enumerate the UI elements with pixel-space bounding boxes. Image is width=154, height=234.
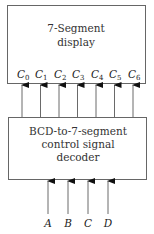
output-label-c0: C0 bbox=[17, 68, 30, 82]
decoder-title-line-2: control signal bbox=[41, 138, 115, 150]
input-label-d: D bbox=[103, 217, 113, 229]
output-label-c3: C3 bbox=[72, 68, 85, 82]
input-label-a: A bbox=[43, 217, 52, 229]
display-title-line-1: 7-Segment bbox=[47, 22, 105, 34]
output-label-c2: C2 bbox=[54, 68, 67, 82]
output-label-c4: C4 bbox=[91, 68, 104, 82]
input-label-c: C bbox=[84, 217, 92, 229]
control-arrows bbox=[22, 85, 133, 117]
diagram-canvas: 7-Segment display C0 C1 C2 C3 C4 C5 C6 B… bbox=[0, 0, 154, 234]
input-labels: A B C D bbox=[43, 217, 113, 229]
output-labels: C0 C1 C2 C3 C4 C5 C6 bbox=[17, 68, 141, 82]
output-label-c5: C5 bbox=[109, 68, 122, 82]
output-label-c6: C6 bbox=[128, 68, 141, 82]
decoder-title-line-3: decoder bbox=[56, 151, 100, 163]
output-label-c1: C1 bbox=[35, 68, 48, 82]
input-arrows bbox=[48, 181, 108, 214]
input-label-b: B bbox=[63, 217, 72, 229]
decoder-title-line-1: BCD-to-7-segment bbox=[29, 125, 128, 137]
display-title-line-2: display bbox=[57, 36, 95, 48]
